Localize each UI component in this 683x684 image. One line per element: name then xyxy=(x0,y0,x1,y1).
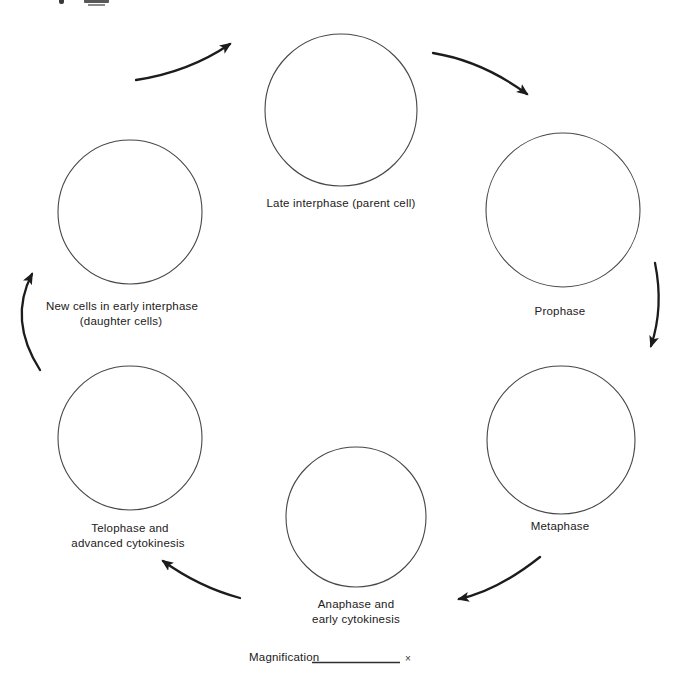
stage-label-anaphase-line1: Anaphase and xyxy=(318,598,395,610)
arrow-prophase-to-metaphase-icon xyxy=(651,263,659,346)
magnification-label: Magnification xyxy=(249,651,319,663)
stage-circle-new-cells xyxy=(58,140,202,284)
arrow-late-interphase-to-prophase-icon xyxy=(433,53,527,94)
arrow-telophase-to-new-cells-icon xyxy=(22,274,40,370)
stage-circle-metaphase xyxy=(487,366,635,514)
stage-circle-anaphase xyxy=(286,447,426,587)
stage-label-prophase: Prophase xyxy=(535,305,586,317)
stage-circle-prophase xyxy=(486,133,640,287)
stage-label-new-cells-line2: (daughter cells) xyxy=(80,315,162,327)
magnification-times-symbol: × xyxy=(405,653,411,664)
stage-label-metaphase: Metaphase xyxy=(531,520,590,532)
stage-circle-late-interphase xyxy=(265,34,417,186)
arrow-new-cells-to-late-interphase-icon xyxy=(136,44,230,80)
stage-label-new-cells-line1: New cells in early interphase xyxy=(46,300,198,312)
stage-label-telophase-line2: advanced cytokinesis xyxy=(71,537,184,549)
stage-circle-telophase xyxy=(58,366,202,510)
stage-label-telophase-line1: Telophase and xyxy=(91,522,168,534)
stage-label-anaphase-line2: early cytokinesis xyxy=(312,613,400,625)
magnification-line: Magnification × xyxy=(249,651,411,664)
worksheet-page: Late interphase (parent cell) Prophase M… xyxy=(0,0,683,684)
stage-label-late-interphase: Late interphase (parent cell) xyxy=(267,197,416,209)
cell-cycle-diagram: Late interphase (parent cell) Prophase M… xyxy=(0,0,683,684)
arrow-anaphase-to-telophase-icon xyxy=(163,561,240,598)
arrow-metaphase-to-anaphase-icon xyxy=(459,557,540,599)
